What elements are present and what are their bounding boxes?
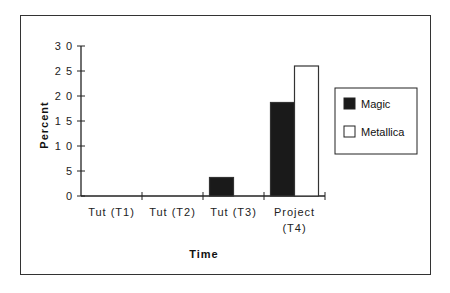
bar-chart: Percent Time 051 01 52 02 53 0Tut (T1)Tu… xyxy=(0,0,450,293)
y-tick-label: 0 xyxy=(66,190,73,202)
legend: MagicMetallica xyxy=(335,88,417,154)
y-tick-label: 5 xyxy=(66,165,73,177)
x-tick-label: Tut (T3) xyxy=(210,206,257,218)
y-tick-label: 1 5 xyxy=(55,115,73,127)
legend-swatch-magic xyxy=(344,98,355,109)
y-tick-label: 1 0 xyxy=(55,140,73,152)
x-tick-label: Project xyxy=(274,206,315,218)
x-axis-title: Time xyxy=(189,248,218,260)
y-tick-label: 2 5 xyxy=(55,65,73,77)
bar-metallica xyxy=(295,66,319,196)
x-tick-label: Tut (T1) xyxy=(88,206,135,218)
legend-swatch-metallica xyxy=(344,126,355,137)
x-tick-label: (T4) xyxy=(282,222,306,234)
y-tick-label: 3 0 xyxy=(55,40,73,52)
y-axis-title: Percent xyxy=(38,101,50,148)
legend-label-metallica: Metallica xyxy=(361,126,405,138)
legend-label-magic: Magic xyxy=(361,98,391,110)
y-tick-label: 2 0 xyxy=(55,90,73,102)
bar-magic xyxy=(210,178,234,197)
x-tick-label: Tut (T2) xyxy=(149,206,196,218)
bar-magic xyxy=(271,103,295,197)
